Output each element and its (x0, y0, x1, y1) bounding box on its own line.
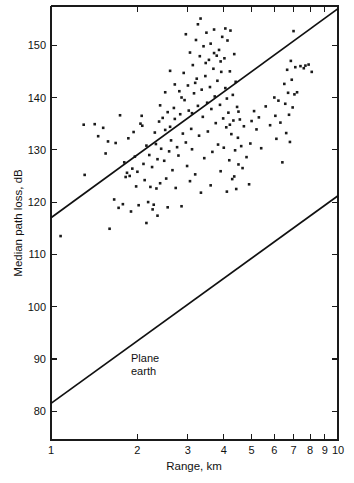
plane-earth-line (51, 196, 338, 404)
scatter-point (202, 45, 205, 48)
scatter-point (137, 204, 140, 207)
scatter-point (269, 124, 272, 127)
scatter-point (180, 96, 183, 99)
y-axis-tick-marks-right (332, 45, 338, 411)
scatter-point (213, 28, 216, 31)
scatter-point (237, 136, 240, 139)
scatter-point (170, 139, 173, 142)
x-axis-title: Range, km (166, 460, 222, 472)
chart-annotations: Planeearth (131, 352, 159, 377)
scatter-point (186, 165, 189, 168)
scatter-point (191, 148, 194, 151)
scatter-point (294, 66, 297, 69)
scatter-point (273, 96, 276, 99)
scatter-point (296, 91, 299, 94)
y-tick-label: 130 (28, 144, 46, 156)
scatter-point (241, 167, 244, 170)
scatter-point (82, 123, 85, 126)
x-tick-label: 6 (271, 444, 277, 456)
scatter-plot-canvas: 12345678910 8090100110120130140150 Plane… (0, 0, 354, 483)
scatter-point (215, 54, 218, 57)
scatter-point (113, 198, 116, 201)
scatter-point (216, 79, 219, 82)
scatter-point (149, 186, 152, 189)
scatter-point (192, 64, 195, 67)
x-tick-label: 5 (249, 444, 255, 456)
scatter-point (155, 143, 158, 146)
scatter-point (166, 111, 169, 114)
scatter-point (145, 222, 148, 225)
scatter-point (148, 154, 151, 157)
x-tick-label: 9 (322, 444, 328, 456)
y-tick-label: 110 (28, 248, 46, 260)
plane-earth-label: Plane (131, 352, 159, 364)
plane-earth-label: earth (131, 365, 156, 377)
scatter-point (205, 31, 208, 34)
scatter-point (178, 90, 181, 93)
scatter-point (199, 17, 202, 20)
scatter-point (117, 207, 120, 210)
scatter-point (132, 131, 135, 134)
scatter-point (197, 23, 200, 26)
scatter-point (240, 145, 243, 148)
chart-figure: 12345678910 8090100110120130140150 Plane… (0, 0, 354, 483)
scatter-point (224, 27, 227, 30)
scatter-point (237, 163, 240, 166)
scatter-point (211, 151, 214, 154)
scatter-point (253, 110, 256, 113)
scatter-point (234, 149, 237, 152)
scatter-point (197, 105, 200, 108)
scatter-point (195, 77, 198, 80)
scatter-point (93, 123, 96, 126)
scatter-point (223, 57, 226, 60)
scatter-point (288, 113, 291, 116)
scatter-point (258, 116, 261, 119)
scatter-point (232, 119, 235, 122)
scatter-point (209, 86, 212, 89)
scatter-point (222, 117, 225, 120)
scatter-point (236, 106, 239, 109)
scatter-point (290, 60, 293, 63)
scatter-point (293, 93, 296, 96)
scatter-point (194, 82, 197, 85)
scatter-point (209, 42, 212, 45)
x-axis-tick-marks (137, 434, 324, 440)
x-tick-label: 2 (134, 444, 140, 456)
scatter-point (245, 156, 248, 159)
scatter-point (248, 183, 251, 186)
scatter-point (310, 71, 313, 74)
scatter-point (232, 94, 235, 97)
scatter-point (180, 205, 183, 208)
scatter-point (174, 187, 177, 190)
scatter-point (160, 147, 163, 150)
scatter-point (163, 159, 166, 162)
scatter-point (126, 172, 129, 175)
scatter-point (107, 140, 110, 143)
scatter-point (166, 206, 169, 209)
scatter-point (143, 179, 146, 182)
plot-frame (51, 6, 338, 440)
y-tick-label: 150 (28, 39, 46, 51)
scatter-point (290, 78, 293, 81)
scatter-point (304, 64, 307, 67)
scatter-point (204, 75, 207, 78)
x-tick-label: 4 (221, 444, 227, 456)
scatter-point (131, 167, 134, 170)
scatter-point (164, 91, 167, 94)
scatter-point (217, 143, 220, 146)
scatter-point (124, 176, 127, 179)
scatter-point (219, 170, 222, 173)
scatter-point (145, 144, 148, 147)
scatter-point (147, 201, 150, 204)
scatter-data-points (59, 17, 313, 237)
scatter-point (198, 134, 201, 137)
scatter-point (161, 117, 164, 120)
scatter-point (221, 36, 224, 39)
scatter-point (237, 110, 240, 113)
scatter-point (183, 99, 186, 102)
scatter-point (231, 178, 234, 181)
scatter-point (127, 137, 130, 140)
scatter-point (264, 105, 267, 108)
scatter-point (152, 203, 155, 206)
scatter-point (287, 92, 290, 95)
